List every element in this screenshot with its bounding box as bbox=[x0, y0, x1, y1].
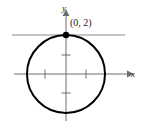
tangent-point-label: (0, 2) bbox=[70, 17, 92, 29]
math-figure: (0, 2) y x bbox=[0, 0, 143, 128]
x-axis-label: x bbox=[130, 69, 135, 79]
y-axis-label: y bbox=[61, 3, 66, 13]
coordinate-plane-svg: (0, 2) y x bbox=[0, 0, 143, 128]
tangent-point-marker bbox=[63, 32, 69, 38]
